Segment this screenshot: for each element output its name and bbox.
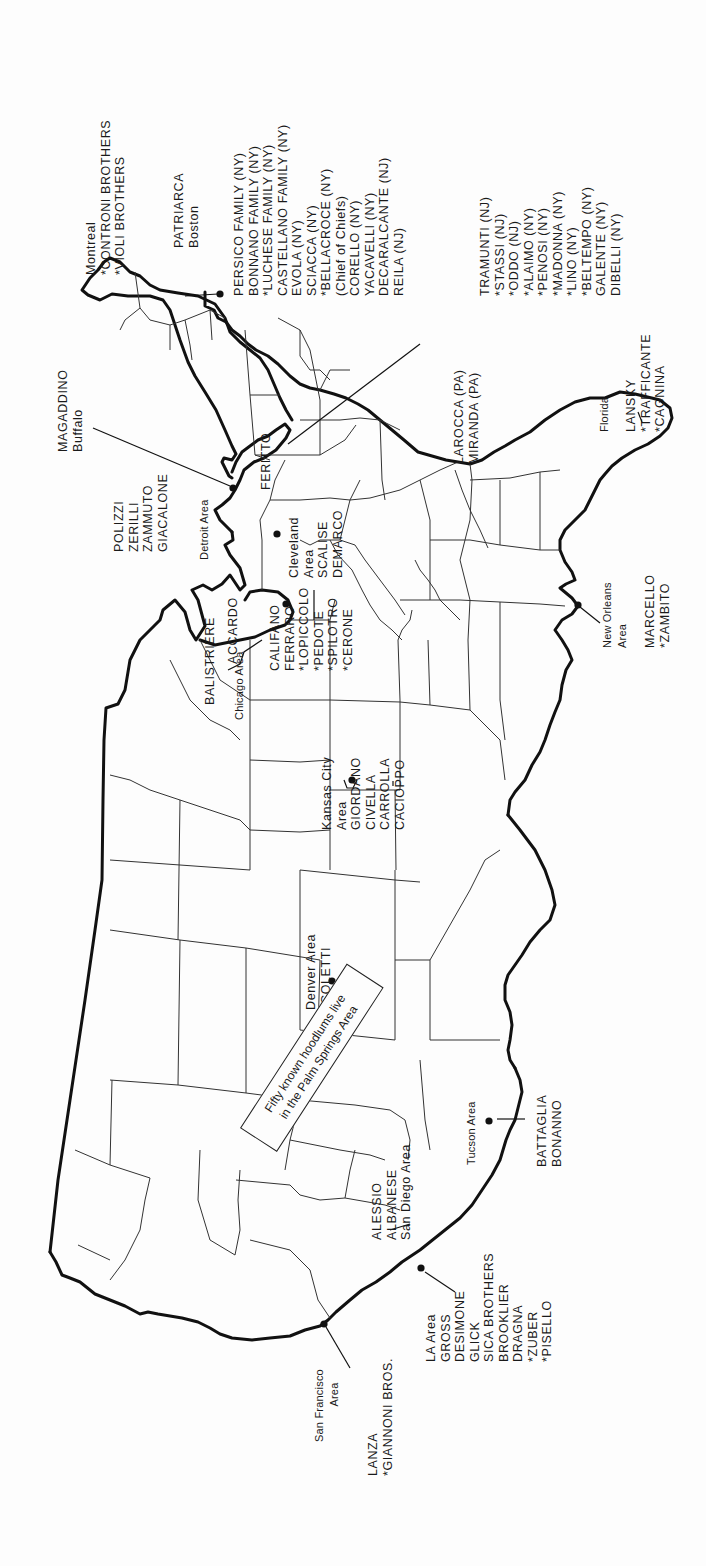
name-castellano: CASTELLANO FAMILY (NY)	[276, 124, 291, 296]
name-califano: CALIFANO	[268, 587, 283, 671]
marker-buffalo	[229, 484, 236, 491]
marker-tucson	[485, 1117, 492, 1124]
label-florida-place: Florida	[597, 397, 612, 432]
name-desimone: DESIMONE	[453, 1253, 468, 1362]
place-florida: Florida	[597, 397, 612, 432]
name-yacavelli: YACAVELLI (NY)	[363, 124, 378, 296]
place-detroit: Detroit Area	[197, 500, 212, 560]
name-giannoni-bros: *GIANNONI BROS.	[381, 1358, 396, 1476]
name-demarco: DEMARCO	[331, 510, 346, 578]
note-chief-of-chiefs: (Chief of Chiefs)	[334, 124, 349, 296]
name-zerilli: ZERILLI	[127, 474, 142, 552]
name-luchese: *LUCHESE FAMILY (NY)	[261, 124, 276, 296]
label-florida: LANSKY *TRAFFICANTE *CAGNINA	[624, 334, 668, 432]
marker-cleveland	[273, 530, 280, 537]
name-cagnina: *CAGNINA	[653, 334, 668, 432]
name-feritto: FERITTO	[259, 433, 274, 490]
leader-sf	[326, 1327, 350, 1368]
place-la: LA Area	[424, 1253, 439, 1362]
place-cleveland-area: Area	[302, 510, 317, 578]
name-alaimo: *ALAIMO (NY)	[522, 186, 537, 296]
name-accardo: ACCARDO	[226, 597, 241, 664]
name-trafficante: *TRAFFICANTE	[639, 334, 654, 432]
leader-new-orleans	[580, 607, 600, 623]
place-boston: Boston	[187, 173, 202, 248]
label-montreal: Montreal *CONTRONI BROTHERS *VIOLI BROTH…	[84, 120, 128, 275]
name-decaralcante: DECARALCANTE (NJ)	[377, 124, 392, 296]
name-persico: PERSICO FAMILY (NY)	[232, 124, 247, 296]
name-giacalone: GIACALONE	[156, 474, 171, 552]
name-beltempo: *BELTEMPO (NY)	[580, 186, 595, 296]
name-albanese: ALBANESE	[385, 1144, 400, 1240]
label-tucson-names: BATTAGLIA BONANNO	[535, 1095, 564, 1167]
name-ferraro: FERRARO	[283, 587, 298, 671]
name-bonnano: BONNANO FAMILY (NY)	[247, 124, 262, 296]
label-detroit-area: Detroit Area	[197, 500, 212, 560]
name-spilotro: *SPILOTRO	[326, 587, 341, 671]
name-violi-brothers: *VIOLI BROTHERS	[113, 120, 128, 275]
leader-feritto	[288, 344, 420, 444]
name-pisello: *PISELLO	[540, 1253, 555, 1362]
label-new-york-group-2: TRAMUNTI (NJ) *STASSI (NJ) *ODDO (NJ) *A…	[478, 186, 623, 296]
name-lopiccolo: *LOPICCOLO	[297, 587, 312, 671]
label-new-york-group-1: PERSICO FAMILY (NY) BONNANO FAMILY (NY) …	[232, 124, 406, 296]
label-accardo: ACCARDO	[226, 597, 241, 664]
name-glick: GLICK	[468, 1253, 483, 1362]
label-new-orleans-names: MARCELLO *ZAMBITO	[643, 574, 672, 648]
name-bellacroce: *BELLACROCE (NY)	[319, 124, 334, 296]
name-controni-brothers: *CONTRONI BROTHERS	[99, 120, 114, 275]
label-cleveland: Cleveland Area SCALISE DEMARCO	[287, 510, 345, 578]
name-corello: CORELLO (NY)	[348, 124, 363, 296]
name-tramunti: TRAMUNTI (NJ)	[478, 186, 493, 296]
label-balistriere: BALISTRIERE	[203, 617, 218, 705]
name-zambito: *ZAMBITO	[658, 574, 673, 648]
label-detroit-names: POLIZZI ZERILLI ZAMMUTO GIACALONE	[112, 474, 170, 552]
name-madonna: *MADONNA (NY)	[551, 186, 566, 296]
name-dibelli: DIBELLI (NY)	[609, 186, 624, 296]
name-lino: *LINO (NY)	[565, 186, 580, 296]
name-larocca: LAROCCA (PA)	[452, 370, 467, 465]
label-kansas-city: Kansas City Area GIORDANO CIVELLA CARROL…	[320, 757, 407, 830]
place-san-francisco: San Francisco	[312, 1369, 327, 1442]
label-pennsylvania: LAROCCA (PA) MIRANDA (PA)	[452, 370, 481, 465]
name-reila: REILA (NJ)	[392, 124, 407, 296]
name-sica-brothers: SICA BROTHERS	[482, 1253, 497, 1362]
name-lansky: LANSKY	[624, 334, 639, 432]
place-san-diego: San Diego Area	[399, 1144, 414, 1240]
place-san-francisco-area: Area	[327, 1369, 342, 1442]
name-penosi: *PENOSI (NY)	[536, 186, 551, 296]
place-montreal: Montreal	[84, 120, 99, 275]
label-chicago-names: CALIFANO FERRARO *LOPICCOLO *PEDOTE *SPI…	[268, 587, 355, 671]
place-buffalo: Buffalo	[71, 370, 86, 453]
name-sciacca: SCIACCA (NY)	[305, 124, 320, 296]
name-zuber: *ZUBER	[526, 1253, 541, 1362]
leader-lines	[93, 294, 642, 1368]
name-magaddino: MAGADDINO	[56, 370, 71, 453]
name-lanza: LANZA	[366, 1358, 381, 1476]
name-oddo: *ODDO (NJ)	[507, 186, 522, 296]
marker-sf	[320, 1320, 327, 1327]
name-galente: GALENTE (NY)	[594, 186, 609, 296]
place-denver: Denver Area	[304, 934, 319, 1010]
name-dragna: DRAGNA	[511, 1253, 526, 1362]
name-scalise: SCALISE	[316, 510, 331, 578]
name-bonanno: BONANNO	[550, 1095, 565, 1167]
name-carrolla: CARROLLA	[378, 757, 393, 830]
name-polizzi: POLIZZI	[112, 474, 127, 552]
label-feritto: FERITTO	[259, 433, 274, 490]
name-giordano: GIORDANO	[349, 757, 364, 830]
name-stassi: *STASSI (NJ)	[493, 186, 508, 296]
name-miranda: MIRANDA (PA)	[467, 370, 482, 465]
label-san-diego: ALESSIO ALBANESE San Diego Area	[370, 1144, 414, 1240]
place-cleveland: Cleveland	[287, 510, 302, 578]
name-zammuto: ZAMMUTO	[141, 474, 156, 552]
label-los-angeles: LA Area GROSS DESIMONE GLICK SICA BROTHE…	[424, 1253, 555, 1362]
label-san-francisco: San Francisco Area	[312, 1369, 341, 1442]
label-san-francisco-names: LANZA *GIANNONI BROS.	[366, 1358, 395, 1476]
place-kansas-city: Kansas City	[320, 757, 335, 830]
place-new-orleans-area: Area	[615, 582, 630, 648]
label-boston: PATRIARCA Boston	[172, 173, 201, 248]
place-tucson: Tucson Area	[464, 1101, 479, 1165]
name-marcello: MARCELLO	[643, 574, 658, 648]
name-battaglia: BATTAGLIA	[535, 1095, 550, 1167]
